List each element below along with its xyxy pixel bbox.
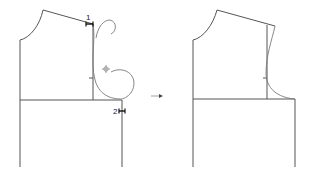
marker-2[interactable]: 2: [113, 107, 125, 116]
pattern-diagram: 1 2: [0, 0, 320, 182]
neckline-curve: [20, 10, 43, 40]
before-figure: 1 2: [20, 10, 134, 167]
marker-1-label: 1: [86, 13, 91, 22]
bezier-handle-bottom[interactable]: [111, 70, 134, 99]
marker-2-label: 2: [113, 107, 118, 116]
right-arrow-icon: [151, 94, 163, 98]
armhole-curve: [266, 26, 295, 99]
shoulder-line: [217, 10, 275, 26]
bezier-handle-top[interactable]: [96, 20, 115, 38]
marker-1[interactable]: 1: [86, 13, 93, 27]
after-figure: [193, 10, 295, 167]
crosshair-cursor-icon: [102, 65, 110, 73]
neckline-curve: [193, 10, 217, 40]
armhole-curve[interactable]: [93, 24, 122, 99]
